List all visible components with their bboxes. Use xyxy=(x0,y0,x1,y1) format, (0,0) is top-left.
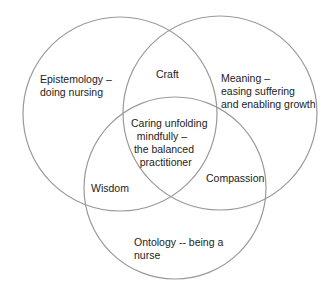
label-craft: Craft xyxy=(156,68,179,81)
label-meaning: Meaning – easing suffering and enabling … xyxy=(221,72,316,111)
label-wisdom: Wisdom xyxy=(91,182,129,195)
label-epistemology: Epistemology – doing nursing xyxy=(40,73,112,99)
label-ontology: Ontology -- being a nurse xyxy=(134,236,223,262)
label-compassion: Compassion xyxy=(206,172,264,185)
label-center-balanced-practitioner: Caring unfolding mindfully – the balance… xyxy=(131,117,207,169)
